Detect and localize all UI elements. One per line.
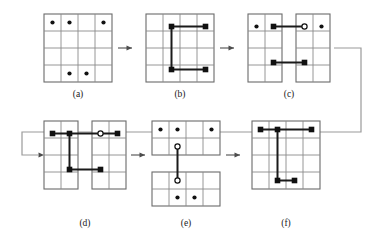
node-left-r1c2 — [271, 24, 276, 29]
dot-top-r1c4 — [209, 127, 213, 131]
dot-right-r1c4 — [319, 24, 323, 28]
node-r4c2 — [169, 67, 174, 72]
caption-b: (b) — [174, 89, 185, 100]
dot-r4c3 — [84, 71, 88, 75]
panel-c-right-half — [296, 14, 330, 82]
caption-a: (a) — [73, 89, 84, 100]
node-right-r1c4 — [115, 131, 120, 136]
node-r4c4 — [203, 67, 208, 72]
node-r1c2 — [275, 127, 280, 132]
dot-top-r1c2 — [175, 127, 179, 131]
panel-b: (b) — [146, 14, 214, 100]
arrow-d-to-e — [131, 153, 145, 158]
dot-left-r1c1 — [254, 24, 258, 28]
caption-c: (c) — [284, 89, 295, 100]
caption-d: (d) — [79, 218, 90, 229]
figure-container: (a) — [0, 0, 373, 246]
caption-e: (e) — [181, 218, 192, 229]
node-left-r1c1 — [50, 131, 55, 136]
panel-d: (d) — [44, 121, 126, 229]
panel-d-right-half — [92, 121, 126, 189]
node-open-top-r2c2 — [175, 144, 180, 149]
node-open-right-r1c3 — [302, 24, 307, 29]
panel-e: (e) — [152, 121, 220, 229]
node-open-right-r1c3 — [98, 131, 103, 136]
dot-r1c2 — [67, 20, 71, 24]
dot-r4c2 — [67, 71, 71, 75]
node-r1c4 — [203, 24, 208, 29]
arrow-a-to-b — [118, 46, 132, 51]
node-r4c2 — [275, 178, 280, 183]
dot-r1c1 — [50, 20, 54, 24]
dot-top-r1c1 — [158, 127, 162, 131]
panel-c: (c) — [248, 14, 330, 100]
arrow-b-to-c — [220, 46, 234, 51]
panel-e-bottom-half — [152, 172, 220, 206]
node-left-r1c2 — [67, 131, 72, 136]
node-right-r4c3 — [98, 167, 103, 172]
dot-bottom-r4c2 — [175, 195, 179, 199]
panel-a: (a) — [44, 14, 112, 100]
panel-d-left-half — [44, 121, 78, 189]
node-open-bottom-r3c2 — [175, 178, 180, 183]
arrow-e-to-f — [226, 153, 240, 158]
caption-f: (f) — [281, 218, 291, 229]
node-left-r4c2 — [67, 167, 72, 172]
panel-f: (f) — [252, 121, 320, 229]
panel-a-grid — [44, 14, 112, 82]
grid-transformation-figure: (a) — [0, 0, 373, 246]
dot-r1c4 — [101, 20, 105, 24]
node-r1c1 — [258, 127, 263, 132]
node-r4c3 — [292, 178, 297, 183]
node-right-r4c3 — [302, 60, 307, 65]
dot-bottom-r4c3 — [192, 195, 196, 199]
panel-c-left-half — [248, 14, 282, 82]
node-left-r4c2 — [271, 60, 276, 65]
node-r1c2 — [169, 24, 174, 29]
panel-e-top-half — [152, 121, 220, 155]
node-r1c4 — [309, 127, 314, 132]
